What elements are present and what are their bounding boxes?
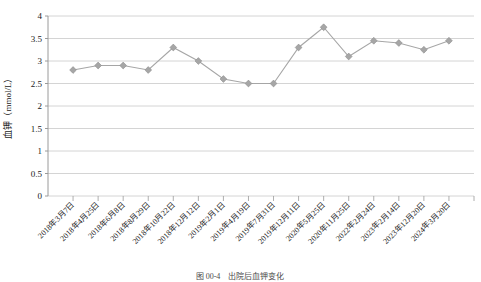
data-point-marker (395, 40, 402, 47)
y-tick-label: 2 (38, 101, 43, 111)
y-tick-label: 1 (38, 146, 43, 156)
y-tick-label: 4 (38, 11, 43, 21)
y-tick-label: 3.5 (31, 34, 43, 44)
y-axis-title-text: 血钾（mmol/L） (2, 74, 13, 139)
y-tick-label: 1.5 (31, 124, 43, 134)
x-tick-label: 2023年12月20日 (381, 199, 428, 246)
grid-lines (48, 16, 474, 196)
y-tick-label: 3 (38, 56, 43, 66)
y-tick-label: 2.5 (31, 79, 43, 89)
chart-figure: 00.511.522.533.54 2018年3月7日2018年4月25日201… (0, 0, 481, 282)
x-tick-label: 2019年12月11日 (256, 199, 302, 245)
caption-text: 图 00-4 出院后血钾变化 (196, 271, 285, 281)
y-axis-title: 血钾（mmol/L） (2, 74, 13, 139)
x-tick-label: 2018年12月12日 (155, 199, 202, 246)
data-point-marker (70, 67, 77, 74)
y-tick-labels: 00.511.522.533.54 (31, 11, 48, 201)
x-axis-ticks (73, 196, 474, 201)
data-series-line (73, 27, 449, 83)
x-tick-label: 2020年11月25日 (306, 199, 352, 245)
data-point-marker (420, 46, 427, 53)
data-point-marker (245, 80, 252, 87)
line-chart: 00.511.522.533.54 2018年3月7日2018年4月25日201… (0, 0, 481, 282)
x-tick-labels: 2018年3月7日2018年4月25日2018年6月8日2018年8月29日20… (35, 199, 452, 246)
figure-caption: 图 00-4 出院后血钾变化 (196, 271, 285, 281)
series-polyline (73, 27, 449, 83)
data-point-marker (270, 80, 277, 87)
data-point-marker (120, 62, 127, 69)
data-series-markers (70, 24, 453, 87)
y-tick-label: 0 (38, 191, 43, 201)
y-tick-label: 0.5 (31, 169, 43, 179)
data-point-marker (95, 62, 102, 69)
x-tick-label: 2018年10月22日 (130, 199, 177, 246)
